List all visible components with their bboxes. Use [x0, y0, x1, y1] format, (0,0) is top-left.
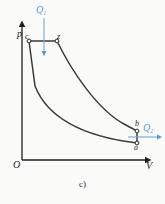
figure-caption: c) [79, 180, 86, 189]
heat-out-subscript: 2 [150, 128, 153, 134]
heat-out-label: Q2 [143, 123, 153, 133]
process-z-to-b [57, 41, 137, 131]
state-point-markers [27, 39, 139, 145]
state-point-label-b: b [135, 120, 139, 128]
process-a-to-c [29, 41, 137, 143]
state-point-label-z: z [57, 33, 60, 41]
state-point-label-c: c [25, 33, 29, 41]
pressure-axis-label: p [17, 29, 22, 39]
state-point-label-a: a [134, 144, 138, 152]
pv-diagram-figure: p V O c z b a Q1 Q2 c) [0, 0, 165, 204]
state-point-b [135, 129, 139, 133]
axis-group [22, 26, 146, 160]
pv-diagram-canvas [0, 0, 165, 204]
heat-in-label: Q1 [36, 5, 46, 15]
heat-in-subscript: 1 [43, 10, 46, 16]
thermodynamic-cycle-path [29, 41, 137, 143]
origin-label: O [13, 160, 20, 170]
volume-axis-label: V [146, 161, 152, 171]
